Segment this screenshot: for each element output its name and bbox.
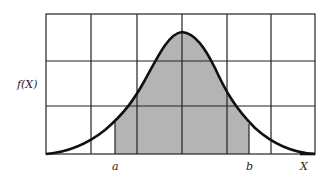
x-axis-label: X — [299, 160, 309, 173]
y-axis-label: f(X) — [16, 78, 38, 91]
normal-curve-figure: f(X) a b X — [0, 0, 333, 183]
bound-label-a: a — [112, 160, 119, 173]
bound-label-b: b — [246, 160, 253, 173]
